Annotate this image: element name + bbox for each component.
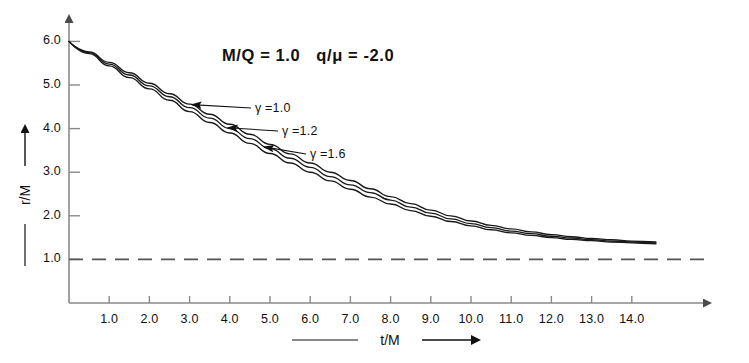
- x-tick-label: 9.0: [417, 312, 445, 326]
- y-tick-label: 4.0: [29, 121, 61, 135]
- y-tick-label: 5.0: [29, 77, 61, 91]
- curve-gamma-1.2: [69, 41, 656, 242]
- x-tick-label: 6.0: [296, 312, 324, 326]
- curve-gamma-1: [69, 41, 656, 242]
- y-tick-label: 6.0: [29, 33, 61, 47]
- x-axis-label-text: t/M: [380, 332, 399, 348]
- x-tick-label: 12.0: [537, 312, 565, 326]
- chart-figure: M/Q = 1.0q/μ = -2.0 r/M t/M: [0, 0, 749, 363]
- x-tick-marks: [109, 296, 632, 303]
- title-left: M/Q = 1.0: [222, 46, 300, 64]
- x-tick-label: 2.0: [135, 312, 163, 326]
- x-tick-label: 8.0: [377, 312, 405, 326]
- x-tick-label: 4.0: [216, 312, 244, 326]
- x-tick-label: 10.0: [457, 312, 485, 326]
- data-curves: [69, 41, 656, 243]
- x-tick-label: 14.0: [618, 312, 646, 326]
- y-axis-label: r/M: [15, 120, 39, 270]
- x-tick-label: 3.0: [176, 312, 204, 326]
- x-tick-label: 5.0: [256, 312, 284, 326]
- x-tick-label: 1.0: [95, 312, 123, 326]
- curve-gamma-1.6: [69, 41, 656, 243]
- y-axis-label-text: r/M: [17, 185, 33, 205]
- y-tick-label: 3.0: [29, 164, 61, 178]
- leader-gamma-1.0: [192, 105, 251, 108]
- x-tick-label: 7.0: [336, 312, 364, 326]
- y-tick-label: 1.0: [29, 251, 61, 265]
- annotation-gamma-1.6: γ =1.6: [310, 147, 346, 161]
- annotation-gamma-1.0: γ =1.0: [255, 101, 291, 115]
- x-tick-label: 13.0: [578, 312, 606, 326]
- x-tick-label: 11.0: [497, 312, 525, 326]
- title-right: q/μ = -2.0: [316, 46, 394, 64]
- annotation-gamma-1.2: γ =1.2: [282, 124, 318, 138]
- chart-title: M/Q = 1.0q/μ = -2.0: [222, 46, 394, 65]
- y-tick-label: 2.0: [29, 208, 61, 222]
- x-axis-label: t/M: [290, 330, 490, 354]
- y-tick-marks: [69, 41, 80, 259]
